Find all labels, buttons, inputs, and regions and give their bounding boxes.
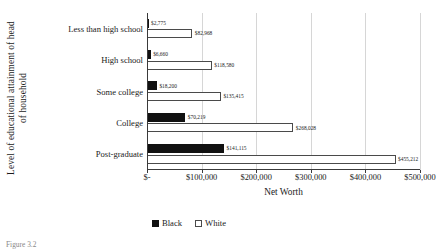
- legend-item-label: Black: [162, 218, 182, 228]
- y-axis-title-line-1: Level of educational attainment of head: [6, 21, 16, 175]
- y-axis-title-line-2: of household: [17, 21, 29, 175]
- legend-item-label: White: [205, 218, 226, 228]
- legend-item: White: [195, 218, 226, 228]
- x-axis-tick-label: $100,000: [186, 172, 217, 183]
- y-axis-category-label: Some college: [34, 87, 143, 97]
- legend-item: Black: [152, 218, 182, 228]
- chart-legend: BlackWhite: [147, 216, 420, 230]
- gridline: [420, 13, 421, 170]
- outlined-white-square-icon: [195, 220, 202, 227]
- x-axis-title: Net Worth: [147, 186, 420, 198]
- y-axis-category-labels: Less than high schoolHigh schoolSome col…: [34, 13, 145, 170]
- plot-area: $2,775$82,968$6,660$118,580$18,200$135,4…: [147, 13, 420, 170]
- y-axis-category-label: College: [34, 118, 143, 128]
- y-axis-category-label: Less than high school: [34, 24, 143, 34]
- y-axis-title: Level of educational attainment of head …: [2, 14, 32, 182]
- filled-black-square-icon: [152, 220, 159, 227]
- x-axis-tick-label: $200,000: [240, 172, 271, 183]
- x-axis-tick-label: $300,000: [295, 172, 326, 183]
- x-axis-tick-label: $500,000: [404, 172, 435, 183]
- x-axis-tick-labels: $-$100,000$200,000$300,000$400,000$500,0…: [147, 172, 420, 186]
- plot-frame: [147, 13, 420, 170]
- y-axis-category-label: Post-graduate: [34, 149, 143, 159]
- y-axis-category-label: High school: [34, 55, 143, 65]
- figure-caption: Figure 3.2: [6, 240, 36, 249]
- x-axis-tick-label: $400,000: [350, 172, 381, 183]
- x-axis-tick-label: $-: [144, 172, 151, 183]
